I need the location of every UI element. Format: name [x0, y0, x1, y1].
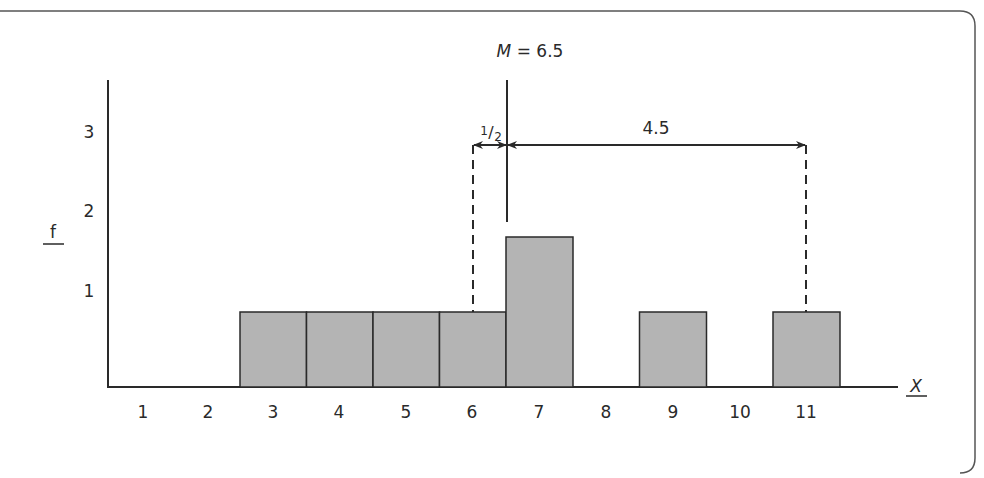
mean-symbol: M [497, 41, 512, 61]
x-tick: 6 [467, 402, 478, 422]
x-tick-labels: 1 2 3 4 5 6 7 8 9 10 11 [138, 402, 817, 422]
mean-value: = 6.5 [511, 41, 563, 61]
x-tick: 3 [268, 402, 279, 422]
y-axis-label: f [50, 222, 57, 242]
bar-x5 [373, 312, 440, 387]
bar-x4 [307, 312, 374, 387]
x-tick: 5 [401, 402, 412, 422]
x-axis-label: X [909, 376, 922, 396]
x-tick: 2 [203, 402, 214, 422]
mean-label: M = 6.5 [497, 41, 564, 61]
y-tick-1: 1 [84, 281, 95, 301]
y-tick-2: 2 [84, 201, 95, 221]
half-label-denominator: 2 [494, 130, 502, 144]
x-tick: 9 [668, 402, 679, 422]
bar-x6 [440, 312, 507, 387]
x-tick: 11 [795, 402, 817, 422]
y-tick-3: 3 [84, 122, 95, 142]
bar-x3 [240, 312, 307, 387]
bar-x11 [773, 312, 840, 387]
histogram-figure: 3 2 1 f 1 2 3 4 5 6 7 8 9 10 11 X M = 6.… [0, 0, 984, 478]
bars [240, 237, 840, 387]
half-label-numerator: 1 [480, 124, 488, 138]
x-tick: 10 [729, 402, 751, 422]
x-tick: 1 [138, 402, 149, 422]
bar-x7 [506, 237, 573, 387]
x-tick: 8 [601, 402, 612, 422]
bar-x9 [640, 312, 707, 387]
x-tick: 4 [334, 402, 345, 422]
right-distance-label: 4.5 [642, 118, 669, 138]
x-tick: 7 [534, 402, 545, 422]
